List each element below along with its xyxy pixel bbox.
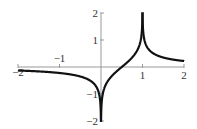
y-tick-label: −2: [86, 115, 98, 127]
x-tick-label: −1: [54, 52, 66, 64]
x-tick-label: 1: [140, 69, 146, 81]
function-plot: −2−112 21−1−2: [0, 0, 197, 129]
curve-right-branch: [143, 13, 185, 61]
y-tick-label: 2: [93, 7, 99, 19]
x-tick-label: 2: [181, 69, 187, 81]
y-tick-label: −1: [86, 88, 98, 100]
y-tick-label: 1: [93, 34, 99, 46]
x-tick-label: −2: [12, 66, 24, 78]
